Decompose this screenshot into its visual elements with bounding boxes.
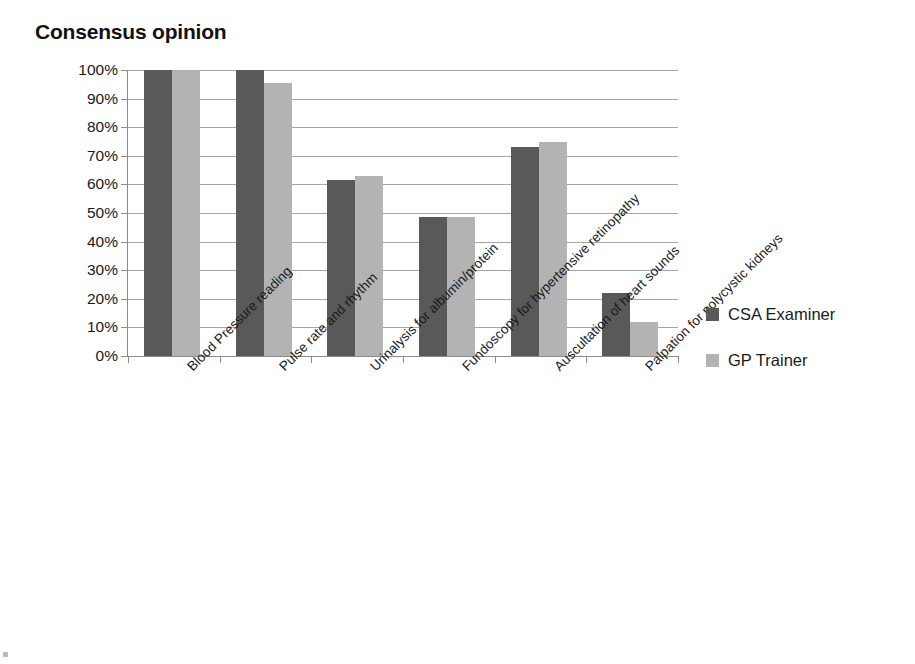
y-tick-mark-30 xyxy=(121,270,128,271)
gridline-70 xyxy=(128,156,678,157)
legend-swatch-icon xyxy=(706,308,719,321)
y-tick-label-30: 30% xyxy=(87,262,118,278)
x-tick-mark xyxy=(311,356,312,363)
scan-artifact xyxy=(3,652,8,657)
bar xyxy=(539,142,567,357)
chart-legend: CSA ExaminerGP Trainer xyxy=(706,304,906,396)
y-tick-mark-90 xyxy=(121,99,128,100)
gridline-90 xyxy=(128,99,678,100)
y-tick-label-50: 50% xyxy=(87,205,118,221)
y-tick-mark-0 xyxy=(121,356,128,357)
legend-item[interactable]: GP Trainer xyxy=(706,350,906,396)
y-tick-label-60: 60% xyxy=(87,176,118,192)
gridline-100 xyxy=(128,70,678,71)
bar xyxy=(327,180,355,356)
x-tick-mark xyxy=(128,356,129,363)
y-tick-label-10: 10% xyxy=(87,319,118,335)
y-tick-label-70: 70% xyxy=(87,148,118,164)
gridline-30 xyxy=(128,270,678,271)
y-tick-mark-20 xyxy=(121,299,128,300)
x-tick-mark xyxy=(220,356,221,363)
x-tick-mark xyxy=(678,356,679,363)
legend-item[interactable]: CSA Examiner xyxy=(706,304,906,350)
gridline-60 xyxy=(128,184,678,185)
bar xyxy=(264,83,292,356)
plot-area xyxy=(128,70,678,356)
bar xyxy=(355,176,383,356)
legend-label: GP Trainer xyxy=(728,350,807,371)
y-tick-label-100: 100% xyxy=(78,62,118,78)
x-tick-mark xyxy=(586,356,587,363)
legend-swatch-icon xyxy=(706,354,719,367)
bar xyxy=(144,70,172,356)
y-tick-label-40: 40% xyxy=(87,234,118,250)
y-tick-mark-50 xyxy=(121,213,128,214)
bar xyxy=(172,70,200,356)
gridline-20 xyxy=(128,299,678,300)
gridline-50 xyxy=(128,213,678,214)
gridline-80 xyxy=(128,127,678,128)
y-tick-mark-100 xyxy=(121,70,128,71)
y-tick-label-0: 0% xyxy=(96,348,118,364)
chart-container: Consensus opinion 100%90%80%70%60%50%40%… xyxy=(0,0,915,664)
y-tick-label-80: 80% xyxy=(87,119,118,135)
legend-label: CSA Examiner xyxy=(728,304,835,325)
y-axis-labels: 100%90%80%70%60%50%40%30%20%10%0% xyxy=(40,0,118,664)
x-tick-mark xyxy=(495,356,496,363)
y-tick-mark-10 xyxy=(121,327,128,328)
y-tick-mark-60 xyxy=(121,184,128,185)
y-tick-label-20: 20% xyxy=(87,291,118,307)
y-tick-mark-40 xyxy=(121,242,128,243)
x-tick-mark xyxy=(403,356,404,363)
y-tick-mark-80 xyxy=(121,127,128,128)
y-tick-mark-70 xyxy=(121,156,128,157)
y-tick-label-90: 90% xyxy=(87,91,118,107)
